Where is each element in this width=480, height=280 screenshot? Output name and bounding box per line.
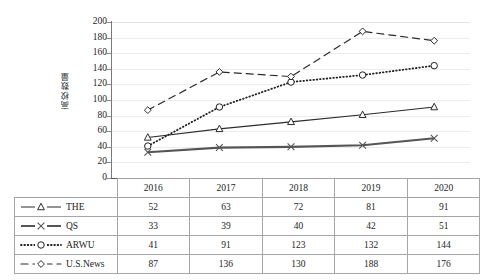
table-cell: 41 [117,236,190,255]
legend-marker-cross [19,220,63,232]
series-line [148,138,434,152]
data-point-diamond [431,37,438,44]
legend-swatch [19,220,63,232]
table-cell: 42 [335,217,408,236]
y-tick-mark [105,100,111,101]
table-cell: 72 [262,198,335,217]
table-cell: 87 [117,255,190,274]
data-table: 20162017201820192020THE5263728191QS33394… [14,178,480,274]
y-tick-mark [105,53,111,54]
table-cell: 52 [117,198,190,217]
table-column-header-2018: 2018 [262,179,335,198]
table-cell: 63 [190,198,263,217]
table-header-row: 20162017201820192020 [15,179,480,198]
data-point-diamond [288,73,295,80]
legend-swatch [19,201,63,213]
table-cell: 123 [262,236,335,255]
table-row: QS3339404251 [15,217,480,236]
legend-label: QS [66,221,78,231]
data-point-diamond [216,69,223,76]
table-cell: 81 [335,198,408,217]
y-tick-mark [105,22,111,23]
series-qs [144,135,437,156]
legend-item-the[interactable]: THE [15,198,118,217]
table-cell: 91 [407,198,480,217]
legend-label: U.S.News [66,259,105,269]
data-point-diamond [359,28,366,35]
table-row: U.S.News87136130188176 [15,255,480,274]
table-cell: 51 [407,217,480,236]
series-the [144,103,437,140]
table-corner-cell [15,179,118,198]
legend-marker-triangle [19,201,63,213]
legend-item-arwu[interactable]: ARWU [15,236,118,255]
legend-marker-diamond [19,258,63,270]
legend-item-inner: QS [19,220,117,232]
y-tick-mark [105,38,111,39]
y-tick-mark [105,131,111,132]
series-layer [0,0,479,180]
y-tick-mark [105,162,111,163]
legend-item-u-s-news[interactable]: U.S.News [15,255,118,274]
data-point-circle [216,104,222,110]
table-cell: 176 [407,255,480,274]
legend-swatch [19,239,63,251]
table-column-header-2019: 2019 [335,179,408,198]
table-row: THE5263728191 [15,198,480,217]
y-tick-mark [105,84,111,85]
data-table-body: 20162017201820192020THE5263728191QS33394… [15,179,480,274]
table-cell: 136 [190,255,263,274]
legend-item-inner: ARWU [19,239,117,251]
table-column-header-2017: 2017 [190,179,263,198]
table-cell: 188 [335,255,408,274]
data-point-diamond [144,107,151,114]
y-tick-mark [105,116,111,117]
table-cell: 144 [407,236,480,255]
table-cell: 91 [190,236,263,255]
table-cell: 33 [117,217,190,236]
data-table-wrapper: 20162017201820192020THE5263728191QS33394… [14,178,470,269]
y-tick-mark [105,147,111,148]
line-chart: 高校数量 200180160140120100806040200 [0,0,479,180]
data-point-triangle [431,103,438,109]
legend-marker-circle [19,239,63,251]
legend-item-inner: U.S.News [19,258,117,270]
table-cell: 39 [190,217,263,236]
legend-item-qs[interactable]: QS [15,217,118,236]
y-tick-mark [105,69,111,70]
legend-swatch [19,258,63,270]
data-point-circle [431,62,437,68]
legend-item-inner: THE [19,201,117,213]
data-point-circle [145,143,151,149]
table-cell: 40 [262,217,335,236]
table-column-header-2020: 2020 [407,179,480,198]
legend-label: ARWU [66,240,95,250]
table-row: ARWU4191123132144 [15,236,480,255]
table-cell: 132 [335,236,408,255]
series-line [148,31,434,110]
table-cell: 130 [262,255,335,274]
table-column-header-2016: 2016 [117,179,190,198]
data-point-circle [38,242,44,248]
data-point-circle [359,72,365,78]
legend-label: THE [66,202,84,212]
